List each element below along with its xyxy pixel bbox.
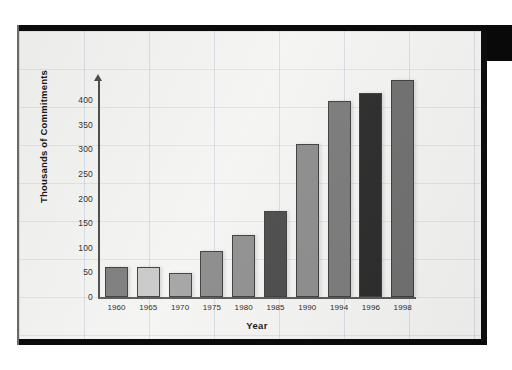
bar-series (19, 31, 481, 339)
bar-1970 (169, 273, 192, 297)
x-axis-tick-1990: 1990 (293, 303, 321, 312)
x-axis-tick-1985: 1985 (262, 303, 290, 312)
scanned-chart-page: 050100150200250300350400 Thousands of Co… (0, 0, 512, 370)
x-axis-tick-1975: 1975 (198, 303, 226, 312)
bar-1985 (264, 211, 287, 297)
bar-1965 (137, 267, 160, 297)
bar-1994 (328, 101, 351, 297)
page-frame-right-tab (487, 25, 512, 61)
x-axis-title: Year (98, 320, 416, 331)
x-axis-tick-1970: 1970 (166, 303, 194, 312)
chart-plot-area: 050100150200250300350400 Thousands of Co… (19, 31, 481, 339)
x-axis-tick-labels: 1960196519701975198019851990199419961998 (19, 303, 481, 317)
x-axis-tick-1998: 1998 (389, 303, 417, 312)
x-axis-tick-1994: 1994 (325, 303, 353, 312)
bar-1960 (105, 267, 128, 297)
bar-1975 (200, 251, 223, 297)
x-axis-tick-1960: 1960 (103, 303, 131, 312)
x-axis-tick-1996: 1996 (357, 303, 385, 312)
x-axis-tick-1980: 1980 (230, 303, 258, 312)
grid-paper-sheet: 050100150200250300350400 Thousands of Co… (19, 31, 481, 339)
bar-1990 (296, 144, 319, 297)
x-axis-tick-1965: 1965 (134, 303, 162, 312)
bar-1980 (232, 235, 255, 297)
page-frame-bottom-bar (17, 339, 487, 345)
page-frame-right-edge (481, 31, 487, 345)
bar-1996 (359, 93, 382, 297)
bar-1998 (391, 80, 414, 297)
